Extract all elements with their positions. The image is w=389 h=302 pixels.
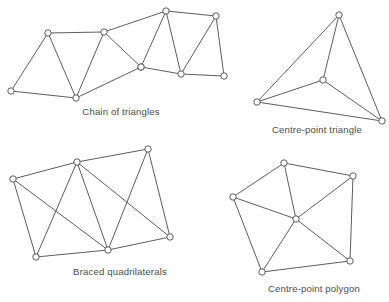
truss-member [296, 219, 350, 261]
truss-joint [336, 12, 342, 18]
truss-member [166, 11, 181, 74]
diagram-canvas: Chain of trianglesCentre-point triangleB… [0, 0, 389, 302]
truss-member [257, 15, 339, 102]
truss-member [48, 33, 76, 98]
truss-joint [101, 29, 107, 35]
truss-member [108, 149, 148, 250]
truss-joint [8, 88, 14, 94]
truss-member [284, 163, 353, 176]
truss-member [323, 15, 339, 80]
figure-centre-point-triangle: Centre-point triangle [254, 12, 385, 135]
node-group [8, 8, 227, 101]
truss-member [36, 162, 77, 257]
truss-member [13, 162, 77, 179]
truss-joint [293, 216, 299, 222]
truss-member [233, 197, 296, 219]
truss-joint [221, 73, 227, 79]
truss-member [13, 179, 36, 257]
edge-group [13, 149, 170, 257]
truss-member [11, 91, 76, 98]
truss-member [350, 176, 353, 261]
truss-joint [45, 30, 51, 36]
truss-joint [33, 254, 39, 260]
truss-joint [259, 269, 265, 275]
truss-joint [145, 146, 151, 152]
figure-root: Chain of trianglesCentre-point triangleB… [0, 0, 389, 302]
figure-caption-braced-quadrilaterals: Braced quadrilaterals [73, 266, 167, 277]
figure-caption-chain-of-triangles: Chain of triangles [82, 106, 159, 117]
figure-braced-quadrilaterals: Braced quadrilaterals [10, 146, 173, 277]
figure-caption-centre-point-triangle: Centre-point triangle [272, 124, 362, 135]
edge-group [257, 15, 382, 121]
truss-member [48, 32, 104, 33]
truss-joint [167, 234, 173, 240]
truss-member [141, 11, 166, 67]
figure-centre-point-polygon: Centre-point polygon [230, 160, 360, 294]
truss-joint [163, 8, 169, 14]
truss-member [257, 102, 382, 121]
truss-joint [105, 247, 111, 253]
truss-joint [281, 160, 287, 166]
truss-member [296, 176, 353, 219]
truss-member [11, 33, 48, 91]
truss-member [323, 80, 382, 121]
figure-caption-centre-point-polygon: Centre-point polygon [268, 283, 360, 294]
truss-joint [320, 77, 326, 83]
truss-member [76, 32, 104, 98]
truss-member [339, 15, 382, 121]
truss-member [104, 11, 166, 32]
truss-joint [379, 118, 385, 124]
truss-member [284, 163, 296, 219]
truss-joint [74, 159, 80, 165]
truss-member [233, 163, 284, 197]
truss-member [216, 16, 224, 76]
truss-member [166, 11, 216, 16]
truss-member [141, 67, 181, 74]
truss-joint [350, 173, 356, 179]
truss-member [77, 162, 170, 237]
truss-joint [73, 95, 79, 101]
truss-member [108, 237, 170, 250]
truss-member [262, 261, 350, 272]
truss-joint [178, 71, 184, 77]
figure-chain-of-triangles: Chain of triangles [8, 8, 227, 117]
node-group [230, 160, 356, 275]
truss-joint [10, 176, 16, 182]
edge-group [11, 11, 224, 98]
truss-member [77, 162, 108, 250]
truss-member [36, 250, 108, 257]
truss-member [233, 197, 262, 272]
truss-member [181, 74, 224, 76]
truss-joint [230, 194, 236, 200]
truss-member [181, 16, 216, 74]
truss-member [262, 219, 296, 272]
truss-joint [138, 64, 144, 70]
node-group [254, 12, 385, 124]
truss-member [148, 149, 170, 237]
truss-joint [254, 99, 260, 105]
truss-member [77, 149, 148, 162]
truss-member [104, 32, 141, 67]
truss-joint [213, 13, 219, 19]
truss-member [76, 67, 141, 98]
truss-joint [347, 258, 353, 264]
truss-member [13, 179, 108, 250]
